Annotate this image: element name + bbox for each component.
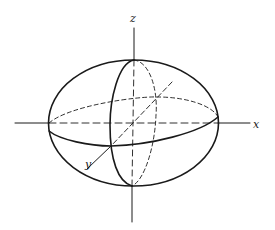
equator-front: [49, 117, 218, 146]
ellipsoid-diagram: z x y: [0, 0, 275, 230]
x-axis-label: x: [253, 118, 260, 131]
y-axis-label: y: [84, 158, 92, 171]
z-axis-label: z: [129, 12, 136, 25]
y-axis-inner: [111, 82, 172, 146]
